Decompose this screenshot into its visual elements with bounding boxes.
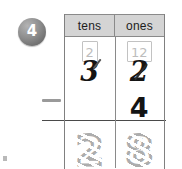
answer-digit-ones: 8	[125, 128, 153, 169]
table-body: 2 12 3 2	[65, 37, 164, 168]
subtrahend-digit-ones: 4	[130, 93, 149, 123]
answer-trace-ones-wrapper: 8	[125, 129, 153, 169]
answer-digit-tens: 2	[76, 128, 104, 169]
minuend-digit-tens-wrapper: 3	[80, 57, 99, 87]
answer-cell-ones[interactable]: 8	[115, 129, 165, 169]
answer-trace-tens-wrapper: 2	[76, 129, 104, 169]
subtrahend-cell-ones: 4	[115, 93, 165, 123]
scan-artifact-mark	[3, 156, 7, 161]
minuend-cell-ones: 2	[115, 57, 165, 87]
minuend-digit-ones-wrapper: 2	[130, 57, 149, 87]
worksheet-problem: 4 tens ones 2 12	[0, 0, 182, 169]
column-header-ones: ones	[115, 15, 164, 36]
column-header-tens: tens	[65, 15, 115, 36]
problem-number-label: 4	[27, 24, 37, 39]
table-header-row: tens ones	[65, 14, 164, 37]
problem-number-badge: 4	[18, 18, 46, 46]
minus-sign-icon	[42, 99, 61, 102]
answer-cell-tens[interactable]: 2	[65, 129, 115, 169]
minuend-digit-tens: 3	[80, 56, 99, 87]
minuend-cell-tens: 3	[65, 57, 115, 87]
place-value-table: tens ones 2 12 3	[64, 14, 165, 169]
subtrahend-cell-tens	[65, 93, 115, 111]
